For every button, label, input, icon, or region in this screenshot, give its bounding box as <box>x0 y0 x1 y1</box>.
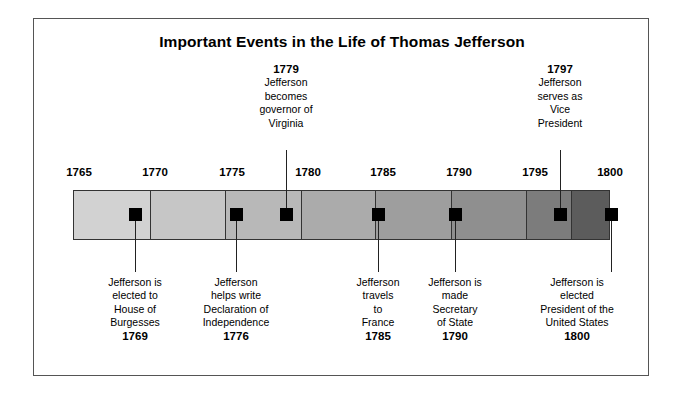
page-title: Important Events in the Life of Thomas J… <box>34 33 650 51</box>
timeline-figure-frame: Important Events in the Life of Thomas J… <box>33 18 649 376</box>
